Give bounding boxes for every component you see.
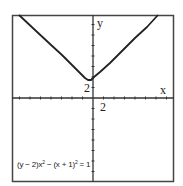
plot-area xyxy=(0,0,183,186)
equation-part: − (x + 1) xyxy=(45,160,75,169)
y-axis-label: y xyxy=(97,17,103,29)
equation-part: = 1 xyxy=(78,160,91,169)
x-axis-label: x xyxy=(160,84,166,96)
x-tick-label: 2 xyxy=(100,101,106,113)
equation-label: (y − 2)x2 − (x + 1)2 = 1 xyxy=(17,160,90,169)
equation-part: (y − 2)x xyxy=(17,160,42,169)
y-tick-label: 2 xyxy=(84,82,90,94)
hyperbola-curve xyxy=(19,15,158,80)
